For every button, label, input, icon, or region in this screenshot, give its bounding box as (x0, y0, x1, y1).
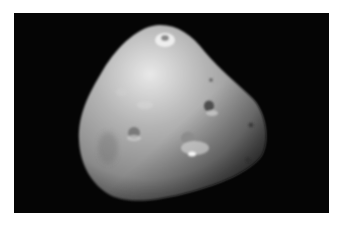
bright-patch-upper-left (116, 88, 128, 96)
small-crater-upper (209, 78, 213, 82)
top-crater (161, 35, 169, 41)
bright-patch-left (137, 101, 153, 109)
small-crater-right (249, 123, 254, 128)
small-crater-right-2 (246, 158, 250, 162)
crater-right (204, 101, 214, 112)
moon-image (0, 0, 342, 227)
dark-patch-left (98, 132, 118, 164)
crater-right-rim (206, 110, 218, 116)
moon-body (79, 25, 266, 201)
crater-left-rim (127, 135, 141, 141)
bright-spot (188, 152, 196, 157)
